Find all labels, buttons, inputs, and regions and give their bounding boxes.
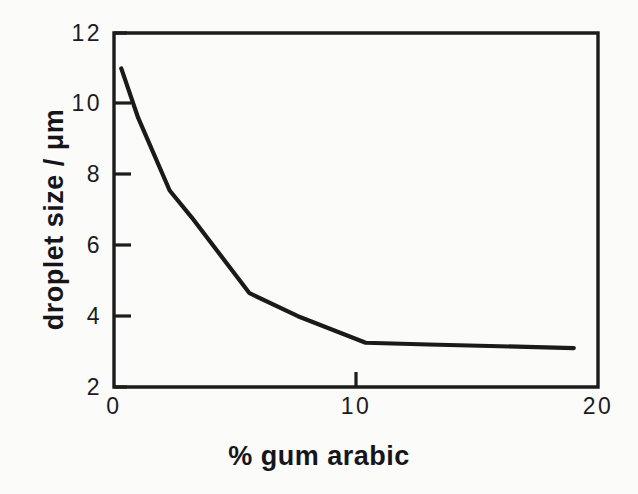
x-tick-label-10: 10 — [326, 393, 386, 420]
x-axis-title: % gum arabic — [0, 441, 638, 472]
y-axis-title: droplet size / μm — [39, 40, 70, 400]
chart-figure: 12 10 8 6 4 2 0 10 20 % gum arabic dropl… — [0, 0, 638, 494]
x-tick-label-20: 20 — [568, 393, 628, 420]
x-tick-label-0: 0 — [84, 393, 144, 420]
data-series-droplet-size — [121, 68, 574, 348]
